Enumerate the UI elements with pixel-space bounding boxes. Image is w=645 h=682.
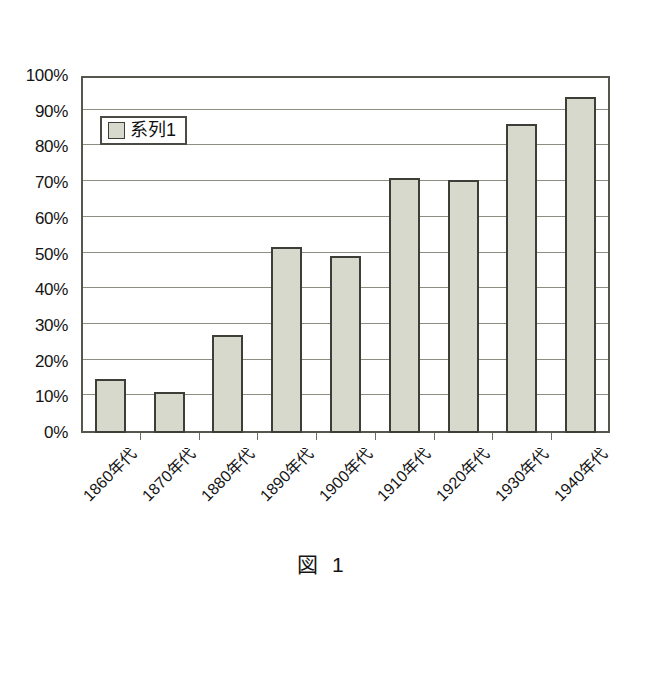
figure-caption: 図 1 [0,548,645,578]
y-axis-tick-label: 20% [35,352,68,372]
y-axis-tick-label: 70% [35,173,68,193]
y-axis-tick-label: 100% [26,66,68,86]
x-axis-tick [316,433,317,440]
x-axis-tick [199,433,200,440]
series-swatch-icon [108,122,125,139]
y-axis-tick-label: 80% [35,137,68,157]
x-axis-tick-label: 1880年代 [194,441,259,506]
y-axis-tick-label: 50% [35,245,68,265]
x-axis-tick [492,433,493,440]
legend-item-label: 系列1 [130,121,176,139]
x-axis-tick [551,433,552,440]
bar[interactable] [95,379,126,433]
x-axis-tick-label: 1860年代 [77,441,142,506]
bar[interactable] [389,178,420,433]
bar[interactable] [565,97,596,433]
bar[interactable] [448,180,479,433]
y-axis-tick-label: 60% [35,209,68,229]
x-axis-tick [434,433,435,440]
bar[interactable] [506,124,537,433]
bar[interactable] [154,392,185,433]
x-axis-tick-label: 1910年代 [370,441,435,506]
bar[interactable] [271,247,302,433]
chart-legend[interactable]: 系列1 [100,116,187,145]
y-axis-tick-label: 40% [35,280,68,300]
x-axis-tick [375,433,376,440]
x-axis-tick-label: 1870年代 [135,441,200,506]
x-axis-ticks [81,433,610,441]
gridline [83,109,608,110]
y-axis-tick-label: 10% [35,387,68,407]
x-axis: 1860年代1870年代1880年代1890年代1900年代1910年代1920… [81,441,641,536]
x-axis-tick-label: 1890年代 [253,441,318,506]
bar[interactable] [212,335,243,433]
x-axis-tick-label: 1940年代 [547,441,612,506]
y-axis-tick-label: 0% [44,423,68,443]
y-axis: 100%90%80%70%60%50%40%30%20%10%0% [0,76,76,433]
x-axis-tick [257,433,258,440]
x-axis-tick-label: 1900年代 [312,441,377,506]
bar[interactable] [330,256,361,433]
x-axis-tick-label: 1920年代 [429,441,494,506]
y-axis-tick-label: 30% [35,316,68,336]
x-axis-tick [140,433,141,440]
x-axis-tick-label: 1930年代 [488,441,553,506]
y-axis-tick-label: 90% [35,102,68,122]
figure-container: 100%90%80%70%60%50%40%30%20%10%0% 1860年代… [0,0,645,682]
